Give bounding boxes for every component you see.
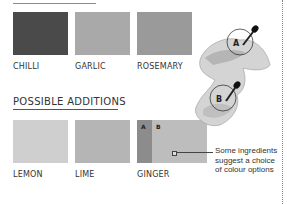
annotation-leader-line [177,152,213,153]
swatch-garlic [75,12,130,55]
svg-text:A: A [233,39,240,48]
swatch-label: CHILLI [13,62,39,71]
swatch-rosemary [137,12,192,55]
annotation-line: of colour options [215,165,277,175]
swatch-label: LIME [75,170,95,179]
swatch-ginger-a: A [137,120,152,163]
swatch-label: LEMON [13,170,43,179]
swatch-lime [75,120,130,163]
swatch-label: GINGER [137,170,170,179]
ginger-illustration: A B [195,10,282,130]
segment-letter: A [141,123,146,130]
segment-letter: B [156,123,161,130]
annotation-line: suggest a choice [215,156,277,166]
swatch-label: GARLIC [75,62,106,71]
annotation-line: Some ingredients [215,146,277,156]
annotation-text: Some ingredients suggest a choice of col… [215,146,277,175]
top-divider [13,3,96,4]
swatch-chilli [13,12,68,55]
swatch-lemon [13,120,68,163]
heading-underline [13,109,118,110]
swatch-label: ROSEMARY [137,62,183,71]
page-edge-dotted [282,0,283,204]
svg-text:B: B [216,95,222,104]
section-heading: POSSIBLE ADDITIONS [13,96,126,107]
